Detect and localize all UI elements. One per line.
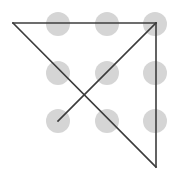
- figure-container: [0, 0, 175, 178]
- dot-r1-c1: [46, 12, 70, 36]
- dot-r2-c1: [46, 61, 70, 85]
- dot-r2-c3: [143, 61, 167, 85]
- dot-r3-c2: [95, 109, 119, 133]
- dot-r3-c3: [143, 109, 167, 133]
- dot-grid-figure: [0, 0, 175, 178]
- dot-r1-c2: [95, 12, 119, 36]
